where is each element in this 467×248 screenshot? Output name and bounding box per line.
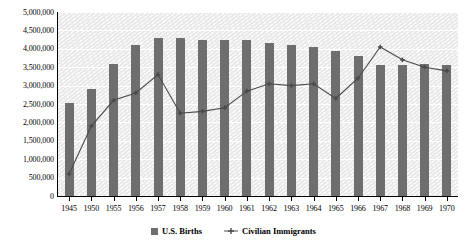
line-series [58,12,458,196]
chart-legend: U.S. Births Civilian Immigrants [0,226,467,236]
x-tick [269,196,270,201]
x-tick [114,196,115,201]
line-marker-plus [200,109,205,114]
line-marker-plus [178,111,183,116]
x-tick-label: 1950 [80,204,102,214]
line-path [69,47,447,174]
y-tick-label: 2,000,000 [0,118,54,127]
x-tick-label: 1963 [280,204,302,214]
y-tick-label: 4,000,000 [0,44,54,53]
legend-item-civilian-immigrants: Civilian Immigrants [224,226,316,236]
x-tick-label: 1957 [147,204,169,214]
y-tick-label: 3,000,000 [0,81,54,90]
x-tick-label: 1962 [258,204,280,214]
x-tick [336,196,337,201]
x-tick-label: 1965 [325,204,347,214]
line-marker-plus [445,69,450,74]
x-tick-label: 1945 [58,204,80,214]
y-tick-label: 0 [0,192,54,201]
y-axis-line [57,12,58,197]
x-tick-label: 1967 [369,204,391,214]
x-tick [358,196,359,201]
y-tick-label: 1,500,000 [0,136,54,145]
y-tick-label: 5,000,000 [0,8,54,17]
line-marker-plus [422,65,427,70]
line-marker-plus [267,81,272,86]
line-marker-plus [67,172,72,177]
x-tick [91,196,92,201]
y-tick-label: 1,000,000 [0,155,54,164]
y-tick-label: 4,500,000 [0,26,54,35]
x-tick [158,196,159,201]
x-tick [136,196,137,201]
legend-label-civilian-immigrants: Civilian Immigrants [242,226,316,236]
x-tick [247,196,248,201]
x-tick-label: 1960 [214,204,236,214]
x-tick-label: 1958 [169,204,191,214]
x-tick [380,196,381,201]
chart-container: 5,000,0004,500,0004,000,0003,500,0003,00… [0,0,467,248]
legend-item-us-births: U.S. Births [151,226,202,236]
x-tick [202,196,203,201]
x-tick [225,196,226,201]
y-axis: 5,000,0004,500,0004,000,0003,500,0003,00… [0,0,54,248]
bar-swatch-icon [151,228,158,235]
x-tick-label: 1956 [125,204,147,214]
legend-label-us-births: U.S. Births [162,226,202,236]
x-tick-label: 1964 [302,204,324,214]
plus-line-swatch-icon [224,227,238,235]
x-tick-label: 1966 [347,204,369,214]
x-axis-line [57,196,458,197]
x-tick-label: 1959 [191,204,213,214]
y-tick-label: 3,500,000 [0,63,54,72]
x-tick-label: 1969 [414,204,436,214]
line-marker-plus [400,58,405,63]
x-tick-label: 1970 [436,204,458,214]
line-marker-plus [289,83,294,88]
x-tick [314,196,315,201]
x-tick-label: 1968 [391,204,413,214]
y-tick-label: 500,000 [0,173,54,182]
x-tick [447,196,448,201]
x-tick [69,196,70,201]
x-tick [180,196,181,201]
x-tick-label: 1961 [236,204,258,214]
x-tick-label: 1955 [102,204,124,214]
x-tick [402,196,403,201]
plot-area [58,12,458,196]
x-tick [291,196,292,201]
y-tick-label: 2,500,000 [0,100,54,109]
x-tick [425,196,426,201]
